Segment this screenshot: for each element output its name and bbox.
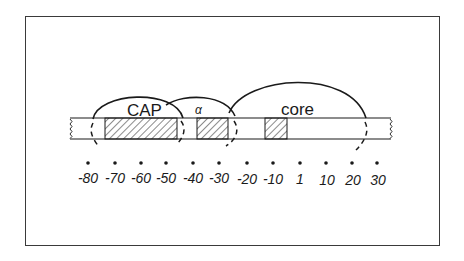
axis-dots [86,161,379,165]
tick-label: -50 [156,170,176,186]
axis-labels: -80 -70 -60 -50 -40 -30 -20 -10 1 10 20 … [78,170,386,188]
tick-label: 30 [370,172,386,188]
tick-label: 10 [319,172,335,188]
tick-label: -40 [183,170,203,186]
promoter-diagram: CAP α core -80 -70 -60 -50 -40 -30 -20 [0,0,464,261]
tick-label: -60 [131,170,151,186]
tick-label: -80 [78,170,98,186]
figure-canvas: CAP α core -80 -70 -60 -50 -40 -30 -20 [0,0,464,261]
left-break-icon [70,119,72,139]
tick-label: -30 [209,170,229,186]
hatched-regions [105,118,287,139]
tick-label: -20 [237,171,257,187]
core-site-box [265,118,287,139]
alpha-label: α [195,103,203,117]
tick-label: -10 [263,171,283,187]
alpha-site-box [197,118,228,139]
right-break-icon [390,119,392,139]
tick-label: 1 [296,171,304,187]
cap-label: CAP [127,101,162,120]
tick-label: -70 [105,170,125,186]
tick-label: 20 [344,172,361,188]
core-label: core [281,100,314,119]
cap-site-box [105,118,177,139]
